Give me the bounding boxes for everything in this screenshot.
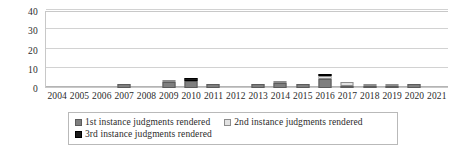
bar-stack-2010 [185, 78, 198, 88]
y-tick-label-10: 10 [28, 65, 38, 75]
x-tick-label-2021: 2021 [426, 90, 448, 103]
legend-label-3rd-instance: 3rd instance judgments rendered [85, 128, 212, 140]
bar-group-2004[interactable] [46, 11, 68, 88]
x-axis: 2004200520062007200820092010201120122013… [46, 90, 448, 104]
x-tick-label-2019: 2019 [381, 90, 403, 103]
y-axis: 010203040 [0, 11, 42, 89]
bar-group-2011[interactable] [202, 11, 224, 88]
x-tick-label-2006: 2006 [91, 90, 113, 103]
bar-segment-s1-2020 [408, 84, 421, 88]
bar-segment-s1-2016 [319, 79, 332, 88]
bar-segment-s1-2014 [274, 83, 287, 88]
bar-group-2017[interactable] [336, 11, 358, 88]
bar-group-2006[interactable] [91, 11, 113, 88]
bar-stack-2014 [274, 81, 287, 88]
bar-stack-2013 [252, 84, 265, 88]
bar-stack-2009 [162, 80, 175, 88]
legend-label-2nd-instance: 2nd instance judgments rendered [234, 116, 362, 128]
bar-group-2007[interactable] [113, 11, 135, 88]
bar-group-2010[interactable] [180, 11, 202, 88]
bar-group-2016[interactable] [314, 11, 336, 88]
bar-stack-2020 [408, 84, 421, 88]
x-tick-label-2018: 2018 [359, 90, 381, 103]
bars-layer [46, 11, 448, 88]
series-1-swatch-icon [75, 119, 82, 126]
bar-stack-2015 [296, 84, 309, 88]
x-tick-label-2010: 2010 [180, 90, 202, 103]
bar-segment-s1-2011 [207, 84, 220, 88]
bar-segment-s1-2017 [341, 86, 354, 88]
x-tick-label-2008: 2008 [135, 90, 157, 103]
bar-segment-s1-2007 [118, 84, 131, 88]
y-tick-label-0: 0 [33, 84, 38, 94]
series-2-swatch-icon [224, 119, 231, 126]
bar-group-2014[interactable] [269, 11, 291, 88]
bar-group-2012[interactable] [225, 11, 247, 88]
legend-item-3rd-instance[interactable]: 3rd instance judgments rendered [75, 128, 212, 140]
y-tick-label-30: 30 [28, 26, 38, 36]
x-tick-label-2014: 2014 [269, 90, 291, 103]
bar-segment-s1-2010 [185, 81, 198, 88]
x-tick-label-2011: 2011 [202, 90, 224, 103]
y-tick-label-20: 20 [28, 46, 38, 56]
gridline-40 [46, 9, 448, 10]
bar-group-2013[interactable] [247, 11, 269, 88]
bar-stack-2011 [207, 84, 220, 88]
series-3-swatch-icon [75, 131, 82, 138]
bar-segment-s1-2018 [363, 86, 376, 88]
legend-item-2nd-instance[interactable]: 2nd instance judgments rendered [224, 116, 362, 128]
bar-stack-2018 [363, 84, 376, 88]
bar-stack-2017 [341, 82, 354, 88]
x-tick-label-2009: 2009 [158, 90, 180, 103]
bar-group-2020[interactable] [403, 11, 425, 88]
legend-row-1: 1st instance judgments rendered 2nd inst… [75, 116, 391, 128]
y-tick-label-40: 40 [28, 7, 38, 17]
bar-group-2021[interactable] [426, 11, 448, 88]
bar-segment-s1-2019 [386, 86, 399, 88]
x-tick-label-2013: 2013 [247, 90, 269, 103]
bar-stack-2019 [386, 84, 399, 88]
bar-group-2015[interactable] [292, 11, 314, 88]
x-tick-label-2017: 2017 [336, 90, 358, 103]
bar-segment-s1-2015 [296, 84, 309, 88]
legend-item-1st-instance[interactable]: 1st instance judgments rendered [75, 116, 210, 128]
bar-chart: 010203040 200420052006200720082009201020… [0, 0, 461, 157]
bar-group-2008[interactable] [135, 11, 157, 88]
x-tick-label-2016: 2016 [314, 90, 336, 103]
bar-segment-s1-2013 [252, 84, 265, 88]
bar-group-2009[interactable] [158, 11, 180, 88]
bar-segment-s1-2009 [162, 82, 175, 88]
x-tick-label-2004: 2004 [46, 90, 68, 103]
x-tick-label-2020: 2020 [403, 90, 425, 103]
x-tick-label-2007: 2007 [113, 90, 135, 103]
bar-group-2005[interactable] [68, 11, 90, 88]
x-tick-label-2005: 2005 [68, 90, 90, 103]
bar-group-2018[interactable] [359, 11, 381, 88]
legend-label-1st-instance: 1st instance judgments rendered [85, 116, 210, 128]
x-tick-label-2015: 2015 [292, 90, 314, 103]
legend-row-2: 3rd instance judgments rendered [75, 128, 391, 140]
x-tick-label-2012: 2012 [225, 90, 247, 103]
bar-stack-2007 [118, 84, 131, 88]
chart-legend: 1st instance judgments rendered 2nd inst… [68, 112, 398, 145]
bar-stack-2016 [319, 74, 332, 88]
bar-group-2019[interactable] [381, 11, 403, 88]
